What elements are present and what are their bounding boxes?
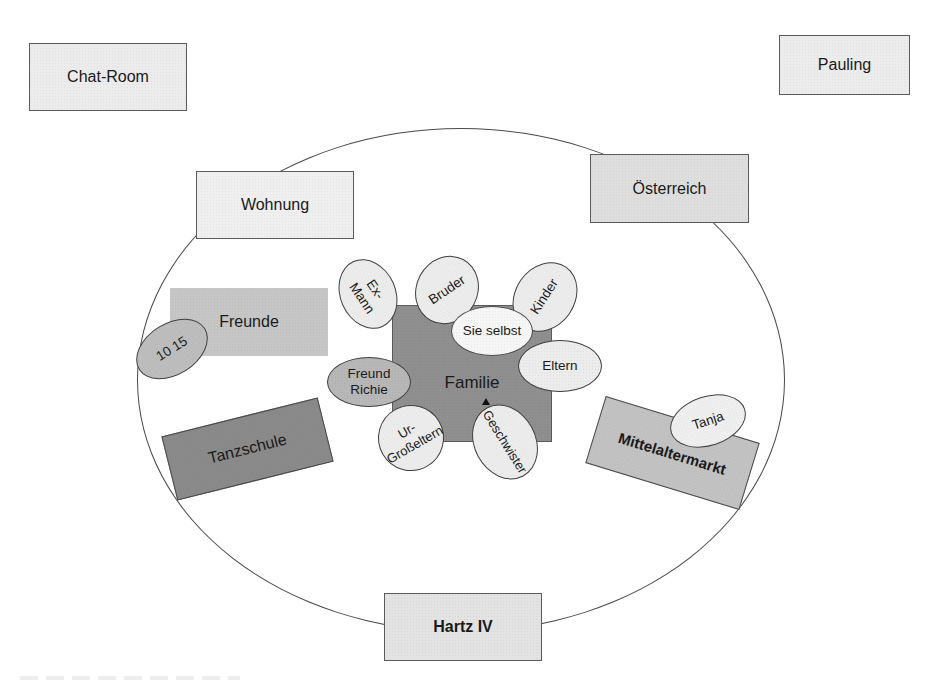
node-label: Hartz IV bbox=[433, 618, 493, 636]
member-label: Kinder bbox=[528, 276, 563, 318]
member-label: Sie selbst bbox=[463, 323, 522, 339]
member-label: Bruder bbox=[426, 272, 469, 308]
node-label: Tanzschule bbox=[206, 431, 288, 468]
node-chat-room: Chat-Room bbox=[29, 43, 187, 111]
node-label: Chat-Room bbox=[67, 68, 149, 86]
member-label: Eltern bbox=[542, 358, 577, 374]
node-label: Tanja bbox=[690, 408, 726, 433]
node-label: Pauling bbox=[818, 56, 871, 74]
member-label: Ur- Großeltern bbox=[376, 409, 445, 467]
member-label-line1: Freund bbox=[348, 366, 391, 381]
node-label: 10 15 bbox=[153, 333, 190, 365]
node-wohnung: Wohnung bbox=[196, 171, 354, 239]
node-label: Wohnung bbox=[241, 196, 309, 214]
node-label: Österreich bbox=[633, 180, 707, 198]
member-freund-richie: Freund Richie bbox=[327, 357, 411, 407]
member-label-line2: Richie bbox=[350, 382, 388, 397]
node-pauling: Pauling bbox=[779, 35, 910, 95]
member-eltern: Eltern bbox=[518, 340, 602, 392]
node-label: Familie bbox=[445, 373, 500, 393]
member-label: Geschwister bbox=[479, 408, 530, 477]
faint-caption bbox=[20, 676, 240, 680]
node-oesterreich: Österreich bbox=[590, 154, 749, 223]
node-label: Freunde bbox=[219, 313, 279, 331]
network-diagram: Chat-Room Pauling Wohnung Österreich Fre… bbox=[0, 0, 930, 687]
node-hartz-iv: Hartz IV bbox=[384, 593, 542, 661]
member-sie-selbst: Sie selbst bbox=[451, 306, 533, 356]
arrow-head-icon bbox=[482, 398, 490, 405]
member-label: Freund Richie bbox=[348, 366, 391, 398]
